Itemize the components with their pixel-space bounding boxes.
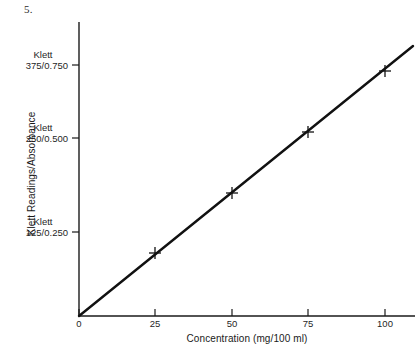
x-tick-label-0: 0 xyxy=(69,318,89,329)
data-point-marker-100 xyxy=(379,65,391,77)
y-axis-title: Klett Readings/Absorbance xyxy=(26,64,37,284)
y-tick-unit-375: Klett xyxy=(20,49,68,60)
x-tick-label-100: 100 xyxy=(373,318,397,329)
x-tick-label-25: 25 xyxy=(145,318,165,329)
data-line-standard-curve xyxy=(79,46,413,316)
x-tick-label-75: 75 xyxy=(298,318,318,329)
figure-container: 5. xyxy=(0,0,415,349)
x-axis-title: Concentration (mg/100 ml) xyxy=(79,333,415,344)
x-tick-label-50: 50 xyxy=(222,318,242,329)
